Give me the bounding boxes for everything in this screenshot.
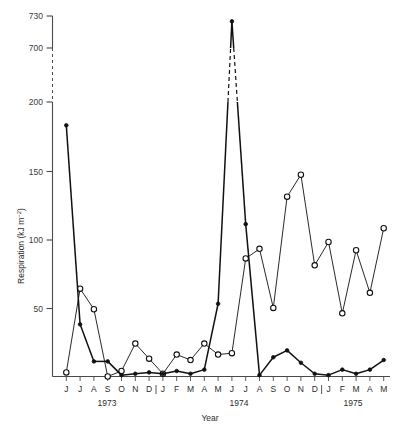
respiration-time-series-chart: 730 700 200 150 100 50 Respiration (kJ m…: [0, 0, 399, 428]
month-label-1: J: [78, 384, 82, 394]
month-label-13: J: [244, 384, 248, 394]
month-label-12: J: [230, 384, 234, 394]
data-point-closed: [161, 372, 165, 376]
data-point-closed: [65, 124, 69, 128]
data-point-closed: [106, 360, 110, 364]
data-point-closed: [341, 368, 345, 372]
month-label-16: O: [284, 384, 291, 394]
month-label-8: F: [174, 384, 179, 394]
svg-text:Respiration (kJ m−2): Respiration (kJ m−2): [16, 208, 26, 284]
data-point-open: [271, 305, 276, 310]
y-tick-label-100: 100: [29, 235, 43, 245]
month-label-10: A: [201, 384, 207, 394]
chart-svg: 730 700 200 150 100 50 Respiration (kJ m…: [0, 0, 399, 428]
month-label-18: D: [312, 384, 318, 394]
data-point-closed: [147, 371, 151, 375]
data-point-closed: [203, 368, 207, 372]
data-point-open: [105, 374, 110, 379]
data-point-closed: [175, 369, 179, 373]
data-point-open: [188, 357, 193, 362]
month-label-7: J: [161, 384, 165, 394]
data-point-closed: [313, 372, 317, 376]
data-point-open: [202, 341, 207, 346]
data-point-open: [133, 341, 138, 346]
data-point-open: [91, 307, 96, 312]
data-point-closed: [368, 368, 372, 372]
data-point-closed: [92, 360, 96, 364]
data-point-open: [340, 311, 345, 316]
data-point-closed: [382, 358, 386, 362]
data-point-open: [284, 194, 289, 199]
month-label-2: A: [91, 384, 97, 394]
month-label-5: N: [132, 384, 138, 394]
data-point-open: [243, 256, 248, 261]
data-point-open: [229, 350, 234, 355]
y-tick-label-50: 50: [34, 304, 44, 314]
data-point-open: [381, 226, 386, 231]
data-point-open: [174, 352, 179, 357]
y-tick-label-200: 200: [29, 97, 43, 107]
data-point-closed: [299, 361, 303, 365]
data-point-open: [353, 248, 358, 253]
data-point-open: [312, 263, 317, 268]
y-axis-title: Respiration (kJ m−2): [16, 208, 26, 284]
data-point-closed: [189, 372, 193, 376]
data-point-open: [64, 370, 69, 375]
x-axis-title: Year: [201, 413, 218, 423]
month-label-17: N: [298, 384, 304, 394]
year-label-1973: 1973: [98, 398, 117, 408]
data-point-closed: [244, 222, 248, 226]
data-point-open: [257, 246, 262, 251]
data-point-closed: [285, 349, 289, 353]
data-point-open: [367, 290, 372, 295]
month-label-6: D: [146, 384, 152, 394]
data-point-closed: [327, 373, 331, 377]
month-label-22: A: [367, 384, 373, 394]
month-label-4: O: [118, 384, 125, 394]
month-label-19: J: [326, 384, 330, 394]
data-point-closed: [258, 373, 262, 377]
y-tick-label-150: 150: [29, 167, 43, 177]
data-point-open: [215, 352, 220, 357]
month-label-3: S: [105, 384, 111, 394]
y-tick-label-700: 700: [29, 43, 43, 53]
data-point-closed: [216, 302, 220, 306]
month-label-0: J: [64, 384, 68, 394]
month-label-9: M: [187, 384, 194, 394]
year-label-1975: 1975: [344, 398, 363, 408]
month-label-14: A: [257, 384, 263, 394]
y-axis-title-main: Respiration (kJ m: [16, 218, 26, 284]
month-label-23: M: [380, 384, 387, 394]
data-point-closed: [134, 372, 138, 376]
chart-background: [0, 0, 399, 428]
month-label-15: S: [270, 384, 276, 394]
month-label-11: M: [215, 384, 222, 394]
data-point-closed: [354, 372, 358, 376]
data-point-closed: [120, 373, 124, 377]
data-point-closed: [78, 323, 82, 327]
y-tick-label-730: 730: [29, 11, 43, 21]
y-axis-title-tail: ): [16, 208, 26, 211]
data-point-open: [298, 172, 303, 177]
data-point-closed: [272, 355, 276, 359]
data-point-closed: [230, 20, 234, 24]
year-label-1974: 1974: [230, 398, 249, 408]
data-point-open: [146, 356, 151, 361]
month-label-21: M: [353, 384, 360, 394]
month-label-20: F: [340, 384, 345, 394]
data-point-open: [326, 239, 331, 244]
